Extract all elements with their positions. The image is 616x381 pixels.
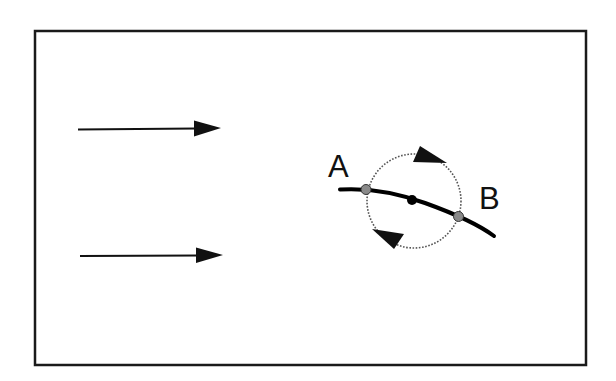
point-center	[407, 195, 417, 205]
diagram-canvas: A B	[0, 0, 616, 381]
label-a: A	[328, 149, 349, 184]
diagram-frame	[35, 31, 586, 365]
label-b: B	[479, 181, 500, 216]
loop-direction-arrow-bottom-icon	[372, 229, 404, 249]
flow-arrow-lower-icon	[80, 248, 223, 264]
loop-direction-arrow-top-icon	[413, 146, 447, 163]
body-curve	[340, 189, 494, 236]
flow-arrow-upper-icon	[78, 121, 221, 137]
point-a	[361, 185, 371, 195]
point-b	[454, 212, 464, 222]
